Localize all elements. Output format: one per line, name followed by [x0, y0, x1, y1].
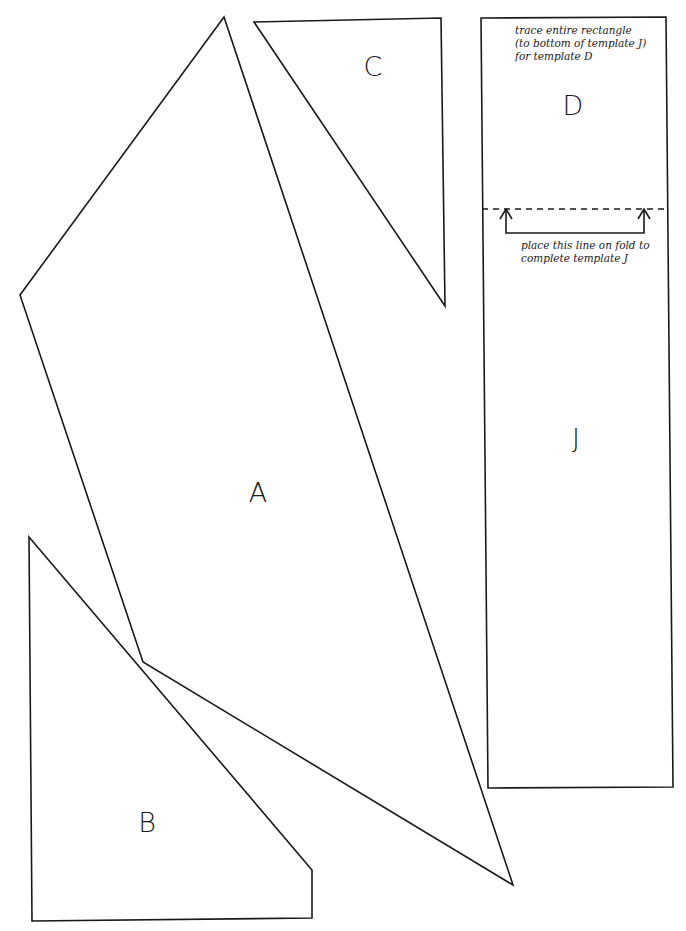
trace-note-line: trace entire rectangle [515, 24, 646, 37]
trace-note-line: (to bottom of template J) [515, 37, 646, 50]
pattern-canvas [0, 0, 686, 931]
template-a-outline [20, 17, 513, 885]
template-c-outline [254, 18, 445, 306]
fold-note-line: place this line on fold to [521, 239, 649, 252]
template-d-j-rectangle [481, 17, 673, 788]
fold-note-line: complete template J [521, 252, 649, 265]
template-c-label: C [364, 53, 383, 80]
trace-instruction-note: trace entire rectangle (to bottom of tem… [515, 24, 646, 63]
template-b-label: B [138, 809, 156, 836]
trace-note-line: for template D [515, 50, 646, 63]
fold-bracket-arrow [506, 209, 644, 233]
template-b-outline [29, 537, 312, 921]
template-d-label: D [563, 92, 584, 119]
template-j-label: J [572, 425, 580, 452]
fold-instruction-note: place this line on fold to complete temp… [521, 239, 649, 265]
template-a-label: A [249, 479, 267, 506]
